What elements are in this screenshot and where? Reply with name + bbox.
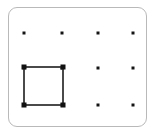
grid-dot-c4-r2[interactable] (132, 67, 135, 70)
square-corner-bottom-right[interactable] (61, 103, 66, 108)
square-corner-bottom-left[interactable] (22, 103, 27, 108)
grid-dot-c1-r1[interactable] (23, 32, 26, 35)
square-corner-top-left[interactable] (22, 65, 27, 70)
grid-dot-c4-r1[interactable] (132, 32, 135, 35)
grid-dot-c4-r3[interactable] (132, 104, 135, 107)
square-corner-top-right[interactable] (61, 65, 66, 70)
grid-dot-c3-r1[interactable] (97, 32, 100, 35)
grid-dot-c3-r2[interactable] (97, 67, 100, 70)
rounded-panel (8, 7, 147, 127)
figure-canvas (0, 0, 153, 134)
grid-dot-c2-r1[interactable] (61, 32, 64, 35)
grid-dot-c3-r3[interactable] (97, 104, 100, 107)
